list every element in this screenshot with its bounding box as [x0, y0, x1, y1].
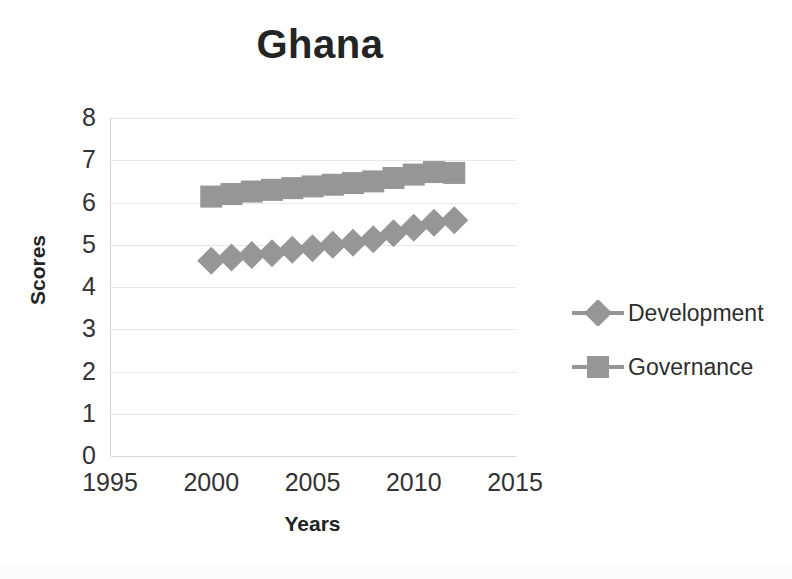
square-marker-icon [570, 354, 626, 380]
legend-entry[interactable]: Governance [570, 340, 785, 394]
chart-figure: Ghana 012345678 Scores 19952000200520102… [0, 0, 792, 579]
gridline [111, 456, 516, 457]
y-axis-tick-label: 6 [60, 190, 96, 215]
y-axis-tick-label: 2 [60, 359, 96, 384]
x-axis-tick-labels: 19952000200520102015 [0, 470, 792, 510]
x-axis-tick-label: 2010 [359, 470, 469, 495]
y-axis-tick-label: 3 [60, 316, 96, 341]
chart-title: Ghana [0, 22, 640, 67]
square-marker-icon [587, 356, 609, 378]
gridline [111, 414, 516, 415]
y-axis-tick-label: 7 [60, 147, 96, 172]
y-axis-tick-label: 4 [60, 274, 96, 299]
y-axis-tick-label: 8 [60, 105, 96, 130]
x-axis-tick-label: 2005 [258, 470, 368, 495]
chart-legend: DevelopmentGovernance [570, 286, 785, 394]
gridline [111, 245, 516, 246]
diamond-marker-icon [584, 300, 612, 326]
y-axis-title: Scores [26, 210, 50, 330]
x-axis-tick-label: 2015 [460, 470, 570, 495]
gridline [111, 160, 516, 161]
plot-area [110, 118, 515, 456]
gridline [111, 203, 516, 204]
legend-label: Development [626, 300, 764, 327]
x-axis-tick-label: 2000 [156, 470, 266, 495]
y-axis-tick-label: 1 [60, 401, 96, 426]
legend-label: Governance [626, 354, 753, 381]
x-axis-tick-label: 1995 [55, 470, 165, 495]
x-axis-title: Years [110, 512, 515, 536]
diamond-marker-icon [570, 300, 626, 326]
y-axis-tick-label: 5 [60, 232, 96, 257]
gridline [111, 287, 516, 288]
legend-entry[interactable]: Development [570, 286, 785, 340]
gridline [111, 329, 516, 330]
gridline [111, 372, 516, 373]
y-axis-tick-label: 0 [60, 443, 96, 468]
gridline [111, 118, 516, 119]
y-axis-tick-labels: 012345678 [52, 118, 96, 456]
